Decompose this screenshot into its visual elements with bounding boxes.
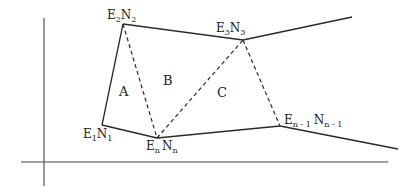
edge-1-2 [102, 24, 123, 125]
diagonal-n-3 [157, 40, 243, 138]
edge-3-open [243, 17, 352, 40]
vertex-label-3: E3N3 [216, 21, 245, 37]
edge-n1-open [280, 126, 398, 149]
diagonal-2-n [123, 24, 157, 138]
region-label-a: A [118, 84, 129, 99]
region-label-b: B [163, 73, 173, 88]
diagonal-3-n1 [243, 40, 280, 126]
traverse-dashed-diagonals [123, 24, 280, 138]
vertex-label-2: E2N2 [107, 8, 136, 24]
vertex-label-n: EnNn [146, 139, 178, 155]
vertex-label-n-minus-1: En - 1Nn - 1 [284, 113, 342, 129]
region-label-c: C [217, 85, 227, 100]
traverse-solid-edges [102, 17, 398, 149]
vertex-label-1: E1N1 [83, 127, 112, 143]
edge-n-n1 [157, 126, 280, 138]
traverse-diagram: A B C E2N2 E3N3 E1N1 EnNn En - 1Nn - 1 [0, 0, 416, 195]
